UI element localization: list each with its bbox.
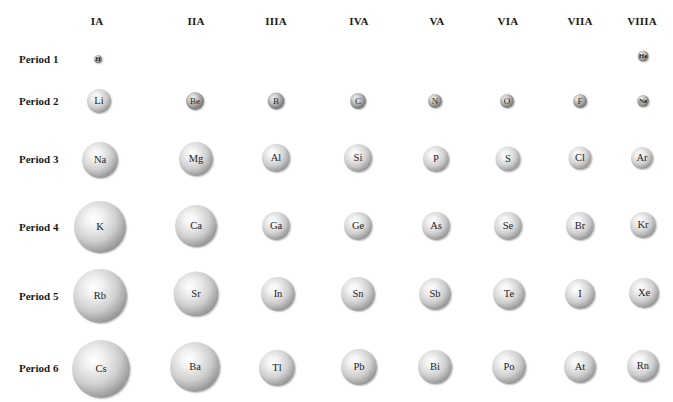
atom-sphere-tl: Tl	[259, 350, 295, 386]
group-label-iia: IIA	[187, 15, 204, 27]
atom-sphere-n: N	[428, 94, 442, 108]
atom-sphere-pb: Pb	[341, 349, 377, 385]
atom-symbol: Na	[94, 155, 106, 166]
atom-sphere-te: Te	[493, 278, 525, 310]
atom-symbol: N	[432, 97, 439, 106]
atom-symbol: Ge	[352, 221, 364, 232]
group-label-ia: IA	[91, 15, 104, 27]
atom-sphere-f: F	[573, 94, 587, 108]
group-label-viiia: VIIIA	[627, 15, 657, 27]
atom-sphere-h: H	[94, 55, 102, 63]
atom-symbol: F	[577, 97, 582, 106]
period-label-5: Period 5	[19, 290, 58, 302]
atom-symbol: Sn	[352, 289, 363, 300]
atom-symbol: K	[96, 222, 104, 233]
group-label-viia: VIIA	[567, 15, 592, 27]
atom-symbol: Ar	[636, 153, 647, 164]
atom-sphere-rb: Rb	[73, 269, 127, 323]
atom-sphere-po: Po	[492, 350, 526, 384]
atom-symbol: B	[273, 97, 279, 106]
atom-symbol: Bi	[430, 362, 440, 373]
atom-sphere-bi: Bi	[418, 350, 452, 384]
atom-sphere-cs: Cs	[72, 340, 130, 398]
atom-symbol: I	[578, 289, 582, 300]
atom-sphere-sr: Sr	[174, 272, 219, 317]
atom-symbol: Ne	[639, 98, 647, 105]
atom-symbol: He	[639, 53, 648, 60]
atom-symbol: Be	[190, 97, 200, 106]
atom-symbol: Sr	[191, 289, 200, 300]
atom-symbol: Se	[503, 221, 514, 232]
atom-sphere-kr: Kr	[630, 212, 656, 238]
period-label-2: Period 2	[19, 95, 58, 107]
group-label-iiia: IIIA	[265, 15, 287, 27]
atom-sphere-at: At	[564, 351, 596, 383]
atom-sphere-sb: Sb	[419, 278, 451, 310]
atom-sphere-i: I	[565, 279, 595, 309]
period-label-6: Period 6	[19, 362, 58, 374]
atom-sphere-li: Li	[87, 89, 111, 113]
atom-sphere-c: C	[350, 93, 366, 109]
atom-sphere-rn: Rn	[627, 350, 659, 382]
atom-sphere-al: Al	[262, 144, 290, 172]
atom-sphere-s: S	[496, 147, 521, 172]
atom-symbol: Al	[271, 153, 282, 164]
atom-symbol: Po	[503, 362, 514, 373]
atom-symbol: Li	[94, 96, 103, 107]
atom-sphere-se: Se	[494, 212, 522, 240]
atom-sphere-he: He	[638, 51, 649, 62]
group-label-via: VIA	[498, 15, 519, 27]
atom-sphere-k: K	[74, 201, 126, 253]
period-label-4: Period 4	[19, 221, 58, 233]
atom-symbol: As	[430, 221, 442, 232]
atom-sphere-ne: Ne	[637, 95, 649, 107]
period-label-3: Period 3	[19, 153, 58, 165]
group-label-va: VA	[430, 15, 445, 27]
atom-symbol: In	[274, 289, 283, 300]
atom-sphere-br: Br	[566, 212, 594, 240]
atom-symbol: Tl	[272, 363, 281, 374]
atom-symbol: Mg	[189, 154, 204, 165]
atom-symbol: Te	[504, 289, 514, 300]
atom-sphere-ga: Ga	[262, 212, 290, 240]
atom-symbol: P	[433, 154, 439, 165]
atom-symbol: Si	[354, 153, 363, 164]
atom-symbol: Rb	[94, 291, 106, 302]
atom-sphere-ba: Ba	[170, 342, 220, 392]
atom-symbol: Ca	[190, 221, 202, 232]
atom-symbol: Br	[575, 221, 586, 232]
atom-symbol: Cl	[575, 153, 585, 164]
atom-sphere-p: P	[423, 146, 449, 172]
atom-symbol: Rn	[637, 361, 649, 372]
atom-symbol: O	[504, 97, 511, 106]
atom-symbol: Xe	[638, 288, 650, 299]
atom-symbol: S	[505, 154, 511, 165]
atom-sphere-xe: Xe	[629, 278, 659, 308]
group-label-iva: IVA	[349, 15, 368, 27]
atomic-radius-periodic-diagram: IAIIAIIIAIVAVAVIAVIIAVIIIA Period 1Perio…	[0, 0, 673, 402]
atom-sphere-ar: Ar	[631, 147, 653, 169]
atom-symbol: C	[355, 97, 361, 106]
atom-sphere-b: B	[268, 93, 285, 110]
atom-symbol: Kr	[637, 220, 648, 231]
atom-sphere-sn: Sn	[341, 277, 375, 311]
atom-symbol: Pb	[353, 362, 364, 373]
atom-sphere-si: Si	[344, 144, 372, 172]
atom-symbol: Sb	[429, 289, 440, 300]
atom-sphere-in: In	[261, 277, 295, 311]
atom-sphere-be: Be	[186, 92, 204, 110]
atom-symbol: Cs	[95, 364, 106, 375]
atom-symbol: Ga	[270, 221, 282, 232]
period-label-1: Period 1	[19, 53, 58, 65]
atom-symbol: At	[575, 362, 586, 373]
atom-symbol: H	[95, 56, 100, 63]
atom-sphere-as: As	[422, 212, 450, 240]
atom-sphere-mg: Mg	[179, 142, 213, 176]
atom-sphere-ge: Ge	[344, 212, 372, 240]
atom-sphere-o: O	[500, 94, 514, 108]
atom-sphere-cl: Cl	[569, 147, 592, 170]
atom-sphere-na: Na	[82, 142, 118, 178]
atom-sphere-ca: Ca	[175, 205, 217, 247]
atom-symbol: Ba	[189, 362, 201, 373]
